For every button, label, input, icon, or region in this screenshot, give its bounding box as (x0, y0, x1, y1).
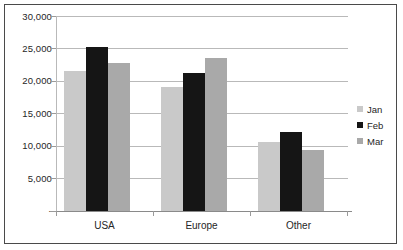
legend-label-feb: Feb (367, 120, 383, 131)
x-tick-start (56, 211, 57, 216)
bar-group-other (258, 16, 324, 211)
y-axis-label-15000: 15,000 (4, 108, 52, 119)
legend-item-jan[interactable]: Jan (357, 101, 399, 117)
x-axis-label-europe: Europe (153, 220, 250, 231)
y-axis-label-25000: 25,000 (4, 43, 52, 54)
bar-other-jan[interactable] (258, 142, 280, 211)
x-tick-usa-europe (153, 211, 154, 216)
bar-usa-mar[interactable] (108, 63, 130, 211)
y-axis-label-5000: 5,000 (4, 173, 52, 184)
legend-item-mar[interactable]: Mar (357, 133, 399, 149)
chart-legend: Jan Feb Mar (357, 101, 399, 149)
x-axis-baseline (56, 211, 352, 212)
y-axis-label-10000: 10,000 (4, 140, 52, 151)
x-axis-label-usa: USA (56, 220, 153, 231)
bar-other-feb[interactable] (280, 132, 302, 211)
bar-europe-mar[interactable] (205, 58, 227, 211)
bar-usa-jan[interactable] (64, 71, 86, 211)
legend-label-mar: Mar (367, 136, 383, 147)
y-axis-label-30000: 30,000 (4, 11, 52, 22)
bar-europe-feb[interactable] (183, 73, 205, 211)
legend-item-feb[interactable]: Feb (357, 117, 399, 133)
bar-usa-feb[interactable] (86, 47, 108, 212)
bar-group-europe (161, 16, 227, 211)
y-axis-label-20000: 20,000 (4, 75, 52, 86)
bar-group-usa (64, 16, 130, 211)
bar-europe-jan[interactable] (161, 87, 183, 211)
x-tick-end (347, 211, 348, 216)
x-axis-label-other: Other (250, 220, 347, 231)
legend-label-jan: Jan (367, 104, 382, 115)
y-axis-label-zero: - (4, 205, 52, 216)
bar-chart-figure: 30,000 25,000 20,000 15,000 10,000 5,000… (0, 0, 403, 250)
legend-swatch-icon-feb (357, 122, 363, 128)
legend-swatch-icon-mar (357, 138, 363, 144)
legend-swatch-icon-jan (357, 106, 363, 112)
x-tick-europe-other (250, 211, 251, 216)
bar-other-mar[interactable] (302, 150, 324, 211)
plot-area (56, 16, 348, 211)
